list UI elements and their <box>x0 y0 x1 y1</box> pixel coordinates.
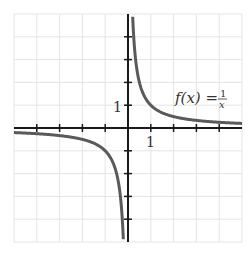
function-label-numerator: 1 <box>220 88 226 99</box>
function-plot: 1 1 f(x) = 1 x <box>0 0 252 257</box>
x-tick-label: 1 <box>146 134 155 150</box>
function-label-denominator: x <box>219 99 225 110</box>
function-label-lhs: f(x) = <box>174 89 218 107</box>
y-tick-label: 1 <box>113 99 122 115</box>
axes <box>14 14 242 242</box>
function-label: f(x) = 1 x <box>174 88 227 110</box>
